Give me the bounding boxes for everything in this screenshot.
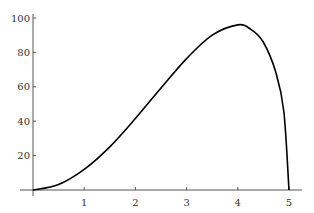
y-tick-label: 60 [17, 81, 30, 92]
line-chart: 1234520406080100 [0, 0, 314, 213]
y-tick-label: 100 [11, 13, 30, 24]
y-tick-label: 80 [17, 47, 30, 58]
axes [20, 14, 302, 196]
x-tick-label: 1 [81, 197, 87, 208]
x-tick-label: 2 [132, 197, 138, 208]
x-tick-label: 4 [235, 197, 241, 208]
x-tick-label: 5 [286, 197, 292, 208]
x-tick-label: 3 [183, 197, 189, 208]
data-curve [33, 25, 289, 190]
y-tick-label: 40 [17, 116, 30, 127]
ticks: 1234520406080100 [11, 13, 292, 209]
y-tick-label: 20 [17, 150, 30, 161]
